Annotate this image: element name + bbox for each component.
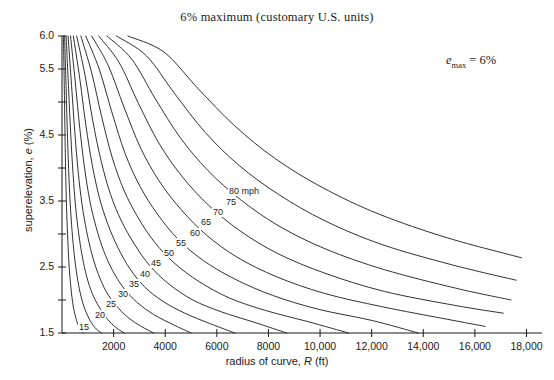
y-axis-variable: e [22,148,34,154]
curve-label-25mph: 25 [105,299,117,309]
curve-label-45mph: 45 [150,258,162,268]
curve-label-80mph: 80 mph [228,186,260,196]
curve-label-55mph: 55 [175,238,187,248]
curve-label-75mph: 75 [225,197,237,207]
curve-70mph [107,36,511,300]
curve-label-70mph: 70 [212,207,224,217]
y-tick-label: 6.0 [20,29,54,41]
x-tick-label: 18,000 [495,340,554,352]
curve-60mph [92,36,486,326]
curve-label-60mph: 60 [189,228,201,238]
curve-label-15mph: 15 [78,322,90,332]
curve-label-35mph: 35 [128,279,140,289]
curve-65mph [99,36,504,313]
x-axis-variable: R [304,355,312,367]
curve-label-20mph: 20 [94,310,106,320]
y-tick-label: 5.5 [20,62,54,74]
x-axis-label: radius of curve, R (ft) [0,355,554,367]
curve-label-30mph: 30 [117,289,129,299]
curve-label-65mph: 65 [200,217,212,227]
y-tick-label: 1.5 [20,326,54,338]
curve-label-50mph: 50 [163,248,175,258]
curve-30mph [68,36,154,333]
y-axis-label: superelevation, e (%) [22,90,34,270]
curve-label-40mph: 40 [139,269,151,279]
chart-figure: 6% maximum (customary U.S. units) emax =… [0,0,554,380]
